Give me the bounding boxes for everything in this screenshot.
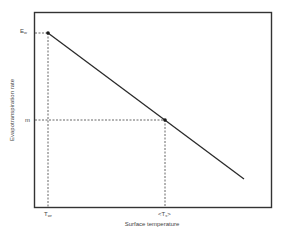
y-tick-m-text: m xyxy=(25,117,30,123)
chart-canvas xyxy=(0,0,284,238)
x-axis-label: Surface temperature xyxy=(125,221,180,227)
x-tick-twr-sub: wr xyxy=(48,213,52,218)
y-tick-m: m xyxy=(25,117,30,123)
et-line xyxy=(48,33,244,179)
x-tick-twr: Twr xyxy=(44,211,52,218)
y-tick-ew-sub: w xyxy=(24,30,27,35)
y-tick-ew: Ew xyxy=(20,28,27,35)
plot-frame xyxy=(35,13,272,208)
y-axis-label: Evapotranspiration rate xyxy=(9,79,15,141)
x-tick-ts: <Ts> xyxy=(158,211,171,218)
x-tick-ts-suffix: > xyxy=(167,211,171,217)
point-marker-ew xyxy=(46,31,50,35)
point-marker-m xyxy=(163,118,167,122)
